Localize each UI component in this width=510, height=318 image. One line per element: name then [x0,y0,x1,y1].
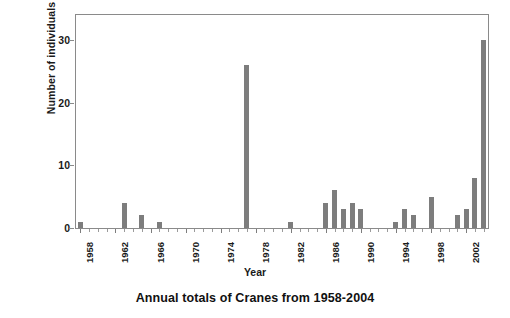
x-axis-tick-label: 1994 [400,242,411,263]
x-axis-tick-mark [238,229,239,232]
x-axis-tick-mark [89,229,90,232]
y-axis-tick-mark [69,165,74,166]
bar [402,209,407,228]
bar [411,215,416,228]
x-axis-tick-mark [352,229,353,232]
x-axis-tick-mark [159,229,160,232]
x-axis-tick-label: 1978 [260,242,271,263]
x-axis-tick-label: 1986 [330,242,341,263]
x-axis-tick-mark [229,229,230,232]
bar [139,215,144,228]
y-axis-tick-mark [69,40,74,41]
x-axis-tick-mark [177,229,178,232]
bar [323,203,328,228]
x-axis-tick-mark [317,229,318,232]
y-axis-tick-mark [69,228,74,229]
x-axis-tick-mark [457,229,458,232]
x-axis-tick-mark [212,229,213,232]
bar [464,209,469,228]
x-axis-tick-label: 1962 [119,242,130,263]
bar [341,209,346,228]
x-axis-tick-mark [475,229,476,232]
y-axis-tick-label: 0 [44,222,70,234]
bar [455,215,460,228]
x-axis-tick-mark [335,229,336,232]
x-axis-tick-label: 1958 [84,242,95,263]
x-axis-tick-mark [308,229,309,232]
x-axis-tick-mark [387,229,388,232]
x-axis-tick-mark [124,229,125,232]
x-axis-tick-label: 1990 [365,242,376,263]
x-axis-tick-mark [168,229,169,232]
x-axis-tick-mark [343,229,344,232]
chart-title: Annual totals of Cranes from 1958-2004 [0,291,510,305]
x-axis-tick-label: 1974 [225,242,236,263]
bar [429,197,434,228]
x-axis-tick-mark [273,229,274,232]
x-axis-tick-mark [300,229,301,232]
x-axis-tick-mark [142,229,143,232]
x-axis-tick-mark [440,229,441,232]
x-axis-tick-mark [98,229,99,232]
bar [358,209,363,228]
x-axis-tick-mark [194,229,195,232]
y-axis-tick-labels: 0102030 [40,14,70,229]
x-axis-tick-label: 2002 [470,242,481,263]
x-axis-tick-mark [413,229,414,232]
y-axis-tick-label: 20 [44,97,70,109]
x-axis-tick-mark [203,229,204,232]
x-axis-tick-mark [449,229,450,232]
chart-figure: Number of individuals 0102030 1958196219… [0,0,510,318]
bar [472,178,477,228]
x-axis-tick-label: 1966 [155,242,166,263]
y-axis-tick-label: 10 [44,159,70,171]
x-axis-tick-mark [107,229,108,232]
x-axis-tick-mark [422,229,423,232]
x-axis-tick-mark [370,229,371,232]
x-axis-tick-mark [247,229,248,232]
y-axis-tick-label: 30 [44,34,70,46]
x-axis-tick-labels: 1958196219661970197419781982198619901994… [76,233,488,265]
x-axis-tick-mark [484,229,485,232]
x-axis-tick-mark [282,229,283,232]
y-axis-tick-mark [69,103,74,104]
x-axis-tick-mark [133,229,134,232]
x-axis-tick-label: 1998 [435,242,446,263]
x-axis-tick-label: 1982 [295,242,306,263]
bar [332,190,337,228]
x-axis-tick-label: 1970 [190,242,201,263]
bar [481,40,486,228]
bar-series [76,15,488,228]
x-axis-tick-mark [405,229,406,232]
x-axis-tick-mark [264,229,265,232]
bar [244,65,249,228]
x-axis-tick-mark [378,229,379,232]
bar [122,203,127,228]
bar [350,203,355,228]
x-axis-title: Year [0,266,510,278]
